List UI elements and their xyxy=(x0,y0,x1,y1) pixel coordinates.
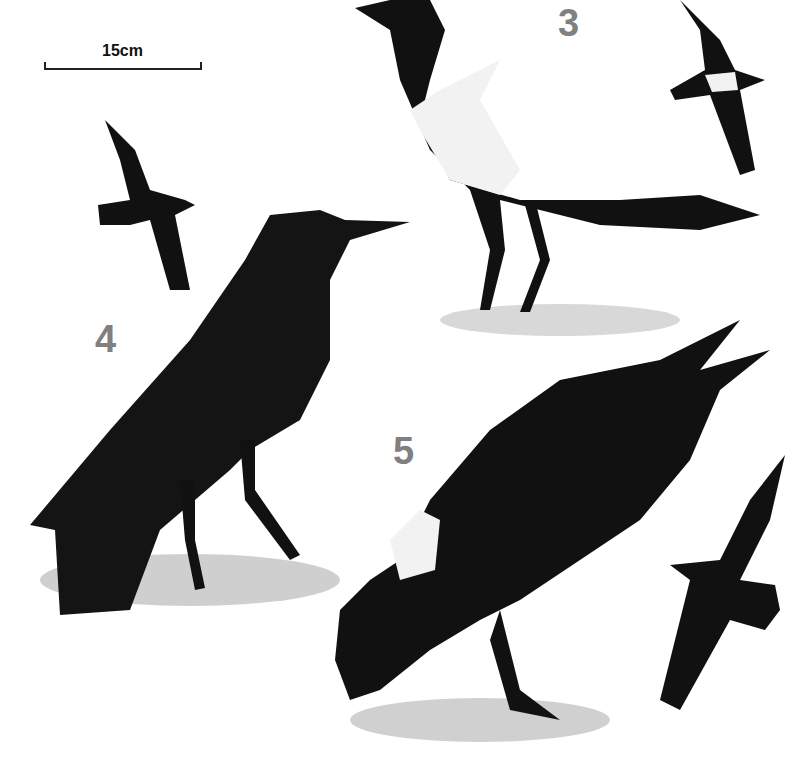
flying-silhouette-4 xyxy=(98,120,195,290)
rook xyxy=(30,210,410,615)
species-number-5: 5 xyxy=(393,430,414,473)
white-necked-raven xyxy=(335,320,770,742)
species-number-3: 3 xyxy=(558,2,579,45)
species-number-4: 4 xyxy=(95,318,116,361)
flying-silhouette-5 xyxy=(660,455,785,710)
bird-illustrations xyxy=(0,0,809,780)
pied-crow-standing xyxy=(355,0,760,336)
